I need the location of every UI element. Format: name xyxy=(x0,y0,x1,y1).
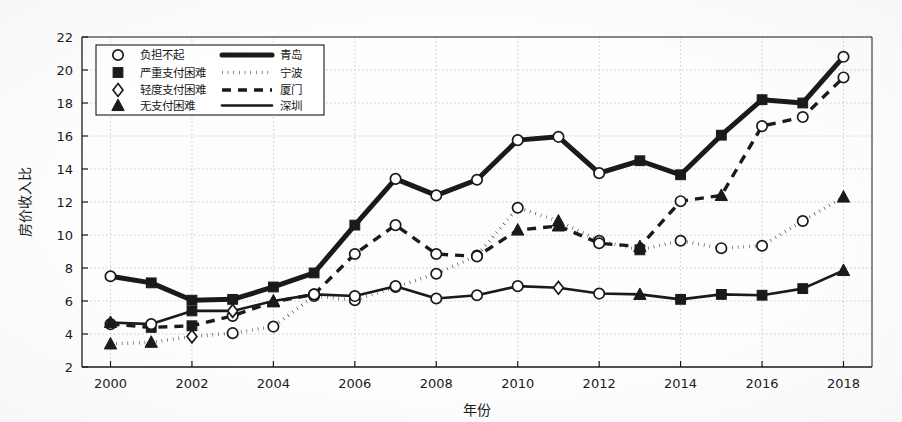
x-tick-label: 2010 xyxy=(501,376,534,391)
y-tick-label: 10 xyxy=(56,228,73,243)
circle-open-marker xyxy=(594,238,604,248)
circle-open-marker xyxy=(513,135,523,145)
square-filled-marker xyxy=(716,290,726,300)
x-tick-label: 2016 xyxy=(746,376,779,391)
circle-open-marker xyxy=(390,281,400,291)
square-filled-marker xyxy=(635,156,645,166)
legend-marker-label: 严重支付困难 xyxy=(140,66,206,80)
legend-city-label: 青岛 xyxy=(280,48,302,62)
circle-open-marker xyxy=(513,203,523,213)
circle-open-marker xyxy=(675,196,685,206)
legend-city-label: 深圳 xyxy=(280,99,302,113)
square-filled-marker xyxy=(716,130,726,140)
legend-city-label: 宁波 xyxy=(280,66,303,80)
circle-open-marker xyxy=(309,289,319,299)
circle-open-marker xyxy=(472,251,482,261)
y-tick-label: 12 xyxy=(56,195,73,210)
circle-open-marker xyxy=(513,281,523,291)
housing-price-income-ratio-chart: 2468101214161820222000200220042006200820… xyxy=(0,0,902,422)
circle-open-marker xyxy=(472,290,482,300)
square-filled-marker xyxy=(268,282,278,292)
circle-open-marker xyxy=(431,190,441,200)
circle-open-marker xyxy=(798,112,808,122)
x-axis-ticks: 2000200220042006200820102012201420162018 xyxy=(94,361,860,391)
triangle-filled-marker xyxy=(837,264,849,276)
square-filled-marker xyxy=(676,170,686,180)
circle-open-marker xyxy=(268,321,278,331)
y-tick-label: 8 xyxy=(65,261,73,276)
y-tick-label: 2 xyxy=(65,360,73,375)
square-filled-marker xyxy=(798,98,808,108)
circle-open-marker xyxy=(113,50,123,60)
legend-marker-label: 轻度支付困难 xyxy=(140,83,206,97)
square-filled-marker xyxy=(187,321,197,331)
circle-open-marker xyxy=(553,132,563,142)
y-tick-label: 4 xyxy=(65,327,73,342)
y-tick-label: 18 xyxy=(56,96,73,111)
square-filled-marker xyxy=(309,268,319,278)
circle-open-marker xyxy=(472,175,482,185)
y-axis-ticks: 246810121416182022 xyxy=(56,30,88,375)
triangle-filled-marker xyxy=(145,336,157,348)
x-tick-label: 2018 xyxy=(827,376,860,391)
circle-open-marker xyxy=(757,121,767,131)
circle-open-marker xyxy=(675,236,685,246)
square-filled-marker xyxy=(228,294,238,304)
square-filled-marker xyxy=(798,284,808,294)
circle-open-marker xyxy=(431,249,441,259)
x-tick-label: 2004 xyxy=(257,376,290,391)
square-filled-marker xyxy=(676,294,686,304)
y-axis-label: 房价收入比 xyxy=(17,167,33,237)
x-axis-label: 年份 xyxy=(463,402,491,418)
triangle-filled-marker xyxy=(104,337,116,349)
legend-box: 负担不起严重支付困难轻度支付困难无支付困难青岛宁波厦门深圳 xyxy=(96,45,324,115)
square-filled-marker xyxy=(757,95,767,105)
circle-open-marker xyxy=(838,72,848,82)
circle-open-marker xyxy=(431,269,441,279)
chart-figure: 2468101214161820222000200220042006200820… xyxy=(0,0,902,422)
circle-open-marker xyxy=(146,319,156,329)
y-tick-label: 14 xyxy=(56,162,73,177)
triangle-filled-marker xyxy=(837,191,849,203)
circle-open-marker xyxy=(757,241,767,251)
circle-open-marker xyxy=(798,216,808,226)
y-tick-label: 6 xyxy=(65,294,73,309)
square-filled-marker xyxy=(187,306,197,316)
circle-open-marker xyxy=(431,293,441,303)
square-filled-marker xyxy=(113,68,123,78)
x-tick-label: 2000 xyxy=(94,376,127,391)
square-filled-marker xyxy=(757,290,767,300)
series-深圳 xyxy=(104,264,849,329)
circle-open-marker xyxy=(350,291,360,301)
x-tick-label: 2012 xyxy=(583,376,616,391)
triangle-filled-marker xyxy=(512,224,524,236)
circle-open-marker xyxy=(390,220,400,230)
y-tick-label: 20 xyxy=(56,63,73,78)
legend-marker-label: 无支付困难 xyxy=(140,99,195,113)
circle-open-marker xyxy=(838,52,848,62)
square-filled-marker xyxy=(146,278,156,288)
circle-open-marker xyxy=(390,174,400,184)
circle-open-marker xyxy=(350,249,360,259)
square-filled-marker xyxy=(187,295,197,305)
diamond-open-marker xyxy=(187,330,197,343)
x-tick-label: 2002 xyxy=(175,376,208,391)
y-tick-label: 22 xyxy=(56,30,73,45)
circle-open-marker xyxy=(105,271,115,281)
series-宁波 xyxy=(104,191,849,349)
legend-city-label: 厦门 xyxy=(280,83,302,97)
circle-open-marker xyxy=(594,288,604,298)
x-tick-label: 2008 xyxy=(420,376,453,391)
y-tick-label: 16 xyxy=(56,129,73,144)
x-tick-label: 2014 xyxy=(664,376,697,391)
circle-open-marker xyxy=(594,168,604,178)
legend-marker-label: 负担不起 xyxy=(140,48,185,62)
circle-open-marker xyxy=(716,243,726,253)
square-filled-marker xyxy=(350,220,360,230)
circle-open-marker xyxy=(227,328,237,338)
series-line xyxy=(111,197,844,344)
x-tick-label: 2006 xyxy=(338,376,371,391)
diamond-open-marker xyxy=(553,281,563,294)
